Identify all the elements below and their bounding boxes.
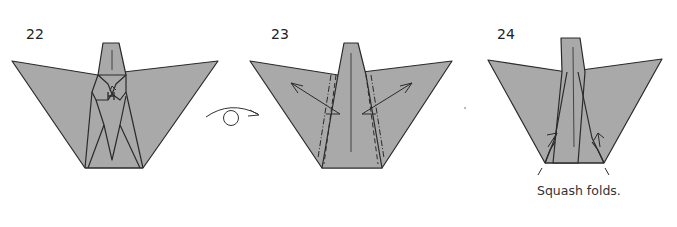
step-22-model [12,43,218,168]
step-23-model [250,43,452,168]
turn-over-icon [206,108,259,126]
speck [464,107,466,109]
step-24-model [488,38,662,175]
origami-diagram [0,0,677,227]
